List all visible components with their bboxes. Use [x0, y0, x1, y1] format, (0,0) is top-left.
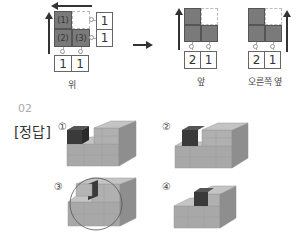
connector-dot — [206, 44, 211, 49]
bottom-count-box: 2 — [248, 51, 265, 69]
top-cell-2: (2) — [54, 29, 72, 47]
connector-dot — [78, 49, 83, 54]
option-marker-2: ② — [162, 121, 171, 132]
option-marker-3: ③ — [54, 181, 63, 192]
front-cell — [184, 25, 201, 42]
right-view-caption: 오른쪽 옆 — [240, 75, 290, 88]
top-cell-3: (3) — [72, 29, 90, 47]
right-cell — [248, 8, 265, 25]
bottom-count-box: 2 — [184, 51, 201, 69]
connector-dot — [270, 44, 275, 49]
right-cell — [265, 25, 282, 42]
front-view-caption: 앞 — [184, 75, 218, 88]
top-cell-empty — [72, 11, 90, 29]
cube-figure-3 — [64, 176, 142, 232]
answer-label: [정답] — [14, 121, 51, 141]
connector-dot — [60, 49, 65, 54]
bottom-count-box: 1 — [264, 51, 281, 69]
right-count-box: 1 — [96, 12, 113, 30]
right-cell — [248, 25, 265, 42]
cell-label: (3) — [75, 34, 86, 43]
top-cell-1: (1) — [54, 11, 72, 29]
right-cell-empty — [265, 8, 282, 25]
bottom-count-box: 1 — [200, 51, 217, 69]
arrow-up — [178, 14, 180, 50]
connector-dot — [189, 44, 194, 49]
arrow-up-head-icon — [45, 12, 53, 19]
section-number: 02 — [18, 102, 32, 115]
connector-dot — [89, 35, 94, 40]
top-view-caption: 위 — [54, 78, 90, 91]
arrow-up-head-icon — [283, 10, 291, 17]
bottom-count-box: 1 — [54, 55, 72, 72]
cube-figure-4 — [172, 180, 252, 230]
arrow-up — [48, 18, 50, 54]
option-marker-4: ④ — [162, 181, 171, 192]
arrow-up — [286, 16, 288, 52]
front-cell-empty — [201, 8, 218, 25]
arrow-left-head-icon — [51, 2, 58, 10]
cell-label: (2) — [57, 34, 68, 43]
arrow-right-head-icon — [146, 41, 153, 49]
bottom-count-box: 1 — [71, 55, 89, 72]
connector-dot — [253, 44, 258, 49]
cube-figure-2 — [172, 120, 252, 170]
arrow-left — [56, 5, 92, 7]
arrow-up-head-icon — [175, 8, 183, 15]
front-cell — [184, 8, 201, 25]
connector-dot — [89, 17, 94, 22]
front-cell — [201, 25, 218, 42]
right-count-box: 1 — [96, 29, 113, 47]
cube-figure-1 — [64, 118, 142, 168]
arrow-right — [133, 44, 147, 46]
cell-label: (1) — [57, 16, 68, 25]
